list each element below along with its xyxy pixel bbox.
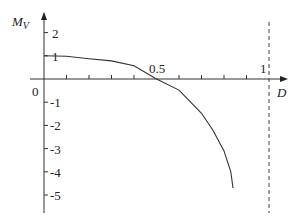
svg-text:-5: -5 <box>50 188 61 203</box>
y-axis-label: MV <box>11 14 31 31</box>
y-tick-labels: 21-1-2-3-4-5 <box>50 26 61 203</box>
origin-label: 0 <box>32 84 39 99</box>
svg-text:-1: -1 <box>50 95 61 110</box>
svg-text:2: 2 <box>52 26 59 41</box>
svg-text:1: 1 <box>52 49 59 64</box>
chart-plot: MV D 0 0.5 1 21-1-2-3-4-5 <box>0 0 300 222</box>
svg-text:-2: -2 <box>50 118 61 133</box>
y-ticks <box>44 33 48 195</box>
x-tick-label-0.5: 0.5 <box>149 61 165 76</box>
svg-text:-4: -4 <box>50 165 61 180</box>
svg-text:-3: -3 <box>50 142 61 157</box>
x-axis-label: D <box>276 85 287 100</box>
x-tick-label-1: 1 <box>260 61 267 76</box>
data-curve <box>44 56 233 188</box>
